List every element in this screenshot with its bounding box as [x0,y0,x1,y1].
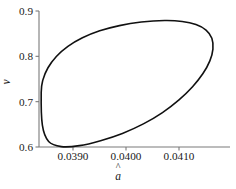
y-tick-label: 0.9 [19,5,33,17]
x-axis-label: a [115,170,121,182]
y-tick-label: 0.8 [19,50,33,62]
x-tick-label: 0.0390 [58,150,89,162]
x-tick-label: 0.0410 [164,150,195,162]
plot-figure: 0.60.70.80.9 0.03900.04000.0410 ν ^ a [0,0,236,189]
orbit-plot: 0.60.70.80.9 0.03900.04000.0410 ν ^ a [0,0,236,189]
y-tick-label: 0.7 [19,96,33,108]
y-axis-label: ν [0,79,12,85]
x-tick-labels: 0.03900.04000.0410 [58,150,195,162]
y-tick-label: 0.6 [19,141,33,153]
